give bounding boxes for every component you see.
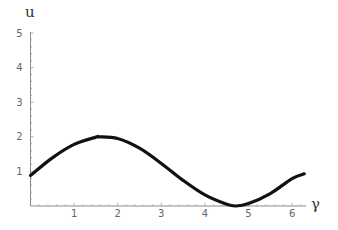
x-tick-label: 3 [158, 208, 164, 219]
line-chart: 12345612345 u γ [0, 0, 338, 230]
data-curve [31, 136, 305, 206]
axes [31, 32, 307, 206]
x-axis-label: γ [311, 195, 320, 213]
ticks: 12345612345 [16, 28, 295, 220]
x-tick-label: 5 [245, 208, 251, 219]
x-tick-label: 6 [289, 208, 295, 219]
y-tick-label: 2 [16, 131, 22, 142]
x-tick-label: 2 [115, 208, 121, 219]
y-tick-label: 3 [16, 97, 22, 108]
y-tick-label: 4 [16, 62, 22, 73]
y-tick-label: 1 [16, 166, 22, 177]
x-tick-label: 1 [71, 208, 77, 219]
y-axis-label: u [25, 3, 35, 21]
x-tick-label: 4 [202, 208, 208, 219]
y-tick-label: 5 [16, 28, 22, 39]
